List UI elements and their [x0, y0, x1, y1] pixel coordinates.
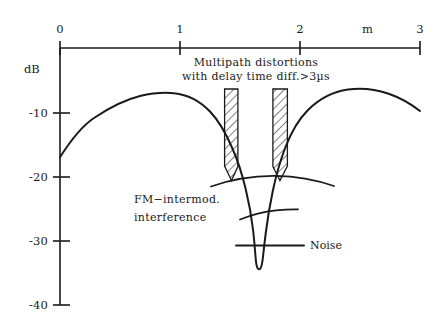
- x-axis: [60, 41, 420, 55]
- y-axis-tick-label-minus20: -20: [10, 170, 48, 184]
- multipath-annotation-line-1: Multipath distortions: [182, 56, 330, 70]
- chart-plot-area: [0, 0, 436, 325]
- y-axis-tick-label-minus30: -30: [10, 234, 48, 248]
- x-axis-tick-label-0: 0: [56, 22, 64, 36]
- x-axis-tick-label-2: 2: [296, 22, 304, 36]
- fm-intermod-annotation-line-2: interference: [134, 211, 220, 225]
- multipath-fading-chart: 0 1 2 3 m -10 -20 -30 -40 dB Multipath d…: [0, 0, 436, 325]
- multipath-distortions-annotation: Multipath distortions with delay time di…: [182, 56, 330, 84]
- multipath-annotation-line-2: with delay time diff.>3µs: [182, 70, 330, 84]
- x-axis-unit-label: m: [362, 22, 373, 36]
- fm-intermod-annotation: FM−intermod. interference: [134, 193, 220, 225]
- x-axis-tick-label-3: 3: [416, 22, 424, 36]
- noise-annotation: Noise: [310, 239, 342, 253]
- y-axis-tick-label-minus40: -40: [10, 298, 48, 312]
- y-axis: [53, 48, 70, 305]
- fm-intermod-annotation-line-1: FM−intermod.: [134, 193, 220, 207]
- y-axis-unit-label: dB: [24, 62, 40, 76]
- y-axis-tick-label-minus10: -10: [10, 106, 48, 120]
- x-axis-tick-label-1: 1: [176, 22, 184, 36]
- multipath-band-right: [273, 89, 288, 181]
